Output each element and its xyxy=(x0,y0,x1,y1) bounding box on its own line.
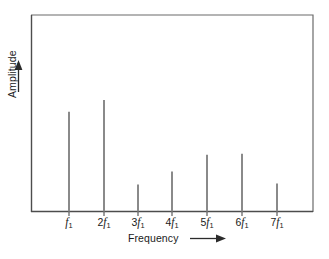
x-tick-label: f1 xyxy=(65,216,72,230)
x-tick-label: 5f1 xyxy=(200,216,213,230)
frequency-arrow-icon xyxy=(190,234,226,242)
spectral-line-group xyxy=(69,100,277,212)
x-tick-label: 7f1 xyxy=(270,216,283,230)
x-tick-label: 2f1 xyxy=(97,216,110,230)
x-axis-title: Frequency xyxy=(128,232,179,244)
x-tick-label: 4f1 xyxy=(165,216,178,230)
x-tick-label: 6f1 xyxy=(235,216,248,230)
x-tick-label: 3f1 xyxy=(131,216,144,230)
y-axis-title: Amplitude xyxy=(6,50,18,98)
spectrum-chart-figure: f12f13f14f15f16f17f1 Frequency Amplitude xyxy=(0,0,329,259)
